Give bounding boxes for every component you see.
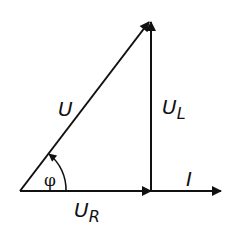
label-ul: UL — [162, 95, 186, 123]
label-current: I — [186, 167, 192, 191]
label-phi: φ — [44, 170, 56, 190]
u-phasor — [20, 22, 149, 191]
label-ur: UR — [74, 198, 100, 226]
label-u: U — [58, 97, 73, 121]
phasor-diagram: U UL UR I φ — [0, 0, 232, 232]
